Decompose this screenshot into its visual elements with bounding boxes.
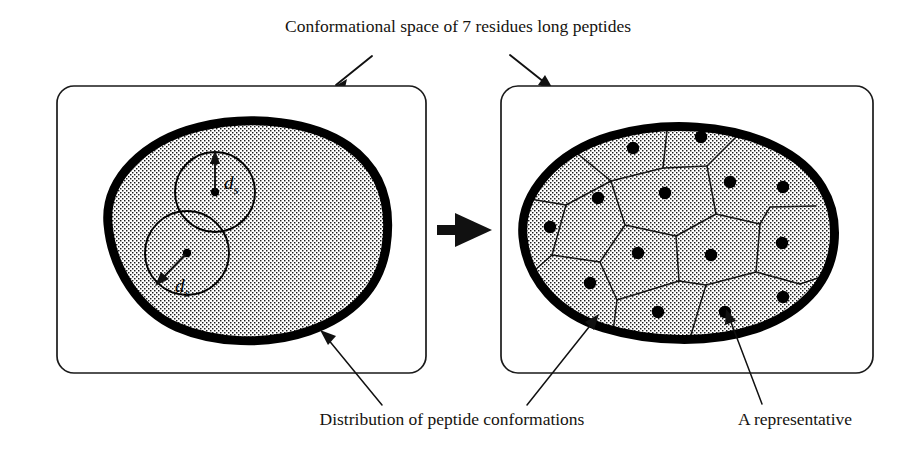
left-panel: ds ds <box>57 86 426 373</box>
representative-dot <box>632 247 644 259</box>
right-panel <box>501 86 873 373</box>
representative-dot <box>724 176 736 188</box>
bottom-left-caption: Distribution of peptide conformations <box>320 409 585 429</box>
representative-dot <box>659 187 671 199</box>
representative-dot <box>627 142 639 154</box>
representative-dot <box>584 277 596 289</box>
representative-dot <box>652 306 664 318</box>
representative-dot <box>777 181 789 193</box>
title-leader-right <box>510 55 553 89</box>
figure-title: Conformational space of 7 residues long … <box>285 16 631 36</box>
representative-dot <box>544 221 556 233</box>
representative-dot <box>592 192 604 204</box>
representative-dot <box>705 249 717 261</box>
representative-dot <box>776 237 788 249</box>
conformational-space-figure: Conformational space of 7 residues long … <box>0 0 917 455</box>
representative-dot <box>777 291 789 303</box>
bottom-right-caption: A representative <box>738 409 852 429</box>
transform-arrow-icon <box>437 213 492 247</box>
representative-dot <box>695 131 707 143</box>
